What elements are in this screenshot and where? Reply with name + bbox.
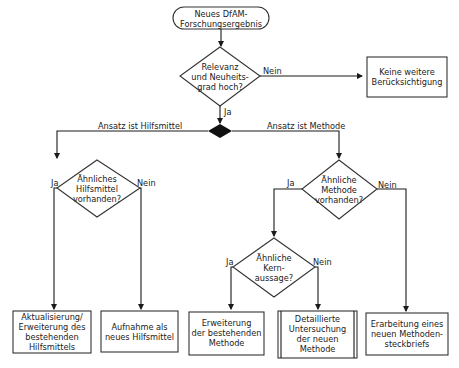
- edge-method-no: Nein: [378, 180, 397, 190]
- branch-diamond: [208, 124, 232, 138]
- edge-relevance-yes: Ja: [224, 107, 231, 117]
- update-aid-label: Aktualisierung/ Erweiterung des bestehen…: [13, 312, 91, 352]
- edge-core-yes: Ja: [226, 257, 233, 267]
- edge-aid-no: Nein: [137, 178, 156, 188]
- start-label: Neues DfAM- Forschungsergebnis: [173, 9, 269, 29]
- decision-similar-core-label: Ähnliche Kern- aussage?: [239, 253, 309, 283]
- edge-aid-yes: Ja: [51, 178, 58, 188]
- new-profile-label: Erarbeitung eines neuen Methoden- steckb…: [366, 319, 448, 349]
- decision-similar-aid-label: Ähnliches Hilfsmittel vorhanden?: [62, 174, 132, 204]
- edge-is-method: Ansatz ist Methode: [267, 121, 345, 131]
- investigate-method-label: Detaillierte Untersuchung der neuen Meth…: [282, 314, 353, 354]
- extend-method-label: Erweiterung der bestehenden Methode: [189, 318, 264, 348]
- edge-relevance-no: Nein: [263, 66, 282, 76]
- edge-core-no: Nein: [313, 257, 332, 267]
- edge-is-aid: Ansatz ist Hilfsmittel: [98, 121, 182, 131]
- new-aid-label: Aufnahme als neues Hilfsmittel: [101, 322, 178, 342]
- decision-similar-method-label: Ähnliche Methode vorhanden?: [304, 175, 374, 205]
- decision-relevance-label: Relevanz und Neuheits- grad hoch?: [185, 62, 255, 92]
- no-consideration-label: Keine weitere Berücksichtigung: [367, 67, 447, 87]
- edge-method-yes: Ja: [287, 178, 294, 188]
